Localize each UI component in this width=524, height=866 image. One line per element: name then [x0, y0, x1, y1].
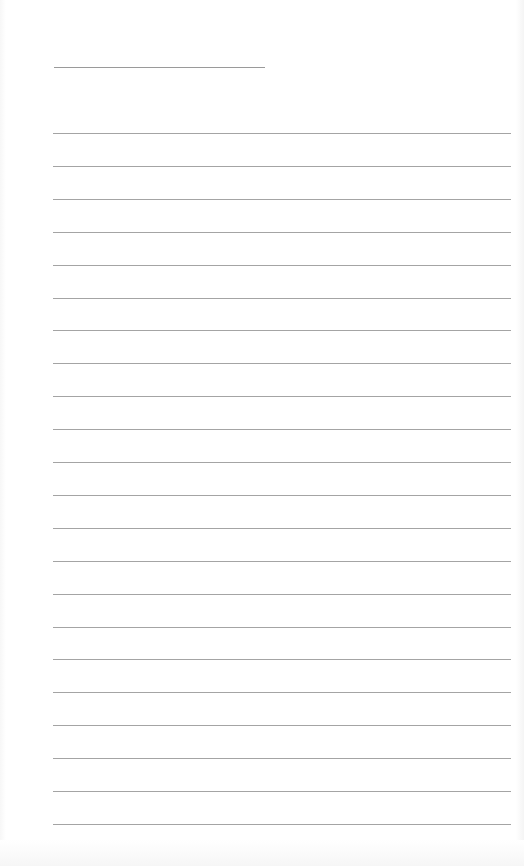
ruled-line	[53, 363, 511, 364]
ruled-line	[53, 396, 511, 397]
ruled-line	[53, 594, 511, 595]
lined-paper-sheet	[0, 0, 524, 866]
ruled-line	[53, 330, 511, 331]
ruled-line	[53, 199, 511, 200]
title-underline	[54, 67, 265, 68]
ruled-line	[53, 166, 511, 167]
ruled-line	[53, 133, 511, 134]
ruled-line	[53, 265, 511, 266]
ruled-line	[53, 462, 511, 463]
ruled-line	[53, 824, 511, 825]
ruled-line	[53, 561, 511, 562]
ruled-line	[53, 429, 511, 430]
ruled-line	[53, 758, 511, 759]
ruled-line	[53, 692, 511, 693]
ruled-line	[53, 528, 511, 529]
ruled-line	[53, 232, 511, 233]
ruled-line	[53, 791, 511, 792]
ruled-line	[53, 495, 511, 496]
page-bottom-shadow	[0, 840, 524, 866]
ruled-line	[53, 725, 511, 726]
ruled-line	[53, 298, 511, 299]
ruled-line	[53, 659, 511, 660]
ruled-line	[53, 627, 511, 628]
